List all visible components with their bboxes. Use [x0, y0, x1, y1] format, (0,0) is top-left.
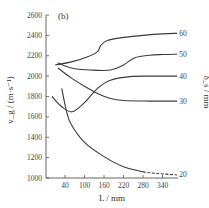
y-tick-label: 2600	[27, 11, 42, 20]
series-line-40	[52, 76, 177, 112]
y-tick-label: 1800	[27, 92, 42, 101]
x-axis-title: L / mm	[99, 193, 125, 203]
y-tick-label: 1600	[27, 112, 42, 121]
x-tick-label: 280	[137, 181, 149, 190]
x-tick-label: 340	[157, 181, 169, 190]
x-tick-label: 160	[98, 181, 110, 190]
y-tick-label: 2400	[27, 31, 42, 40]
y-tick-label: 1200	[27, 153, 42, 162]
right-axis-title: δ_s / mm	[202, 75, 209, 108]
series-label-30: 30	[179, 97, 187, 106]
series-label-50: 50	[179, 50, 187, 59]
curves	[52, 33, 177, 175]
panel-label: (b)	[58, 11, 69, 21]
series-line-50	[58, 54, 177, 70]
x-tick-label: 40	[61, 181, 69, 190]
series-label-60: 60	[179, 29, 187, 38]
series-label-40: 40	[179, 72, 187, 81]
chart: 1000120014001600180020002200240026004010…	[0, 0, 209, 208]
y-axis-title: v_g / (m·s⁻¹)	[5, 76, 15, 124]
y-tick-label: 1400	[27, 133, 42, 142]
series-label-20: 20	[179, 170, 187, 179]
series-line-30	[58, 68, 177, 101]
y-tick-label: 2200	[27, 51, 42, 60]
y-tick-label: 1000	[27, 174, 42, 183]
series-line-20-dashed	[143, 172, 177, 175]
x-tick-label: 100	[79, 181, 91, 190]
series-line-60	[55, 33, 177, 65]
x-tick-label: 220	[118, 181, 130, 190]
y-tick-label: 2000	[27, 72, 42, 81]
axes: 1000120014001600180020002200240026004010…	[27, 11, 178, 191]
